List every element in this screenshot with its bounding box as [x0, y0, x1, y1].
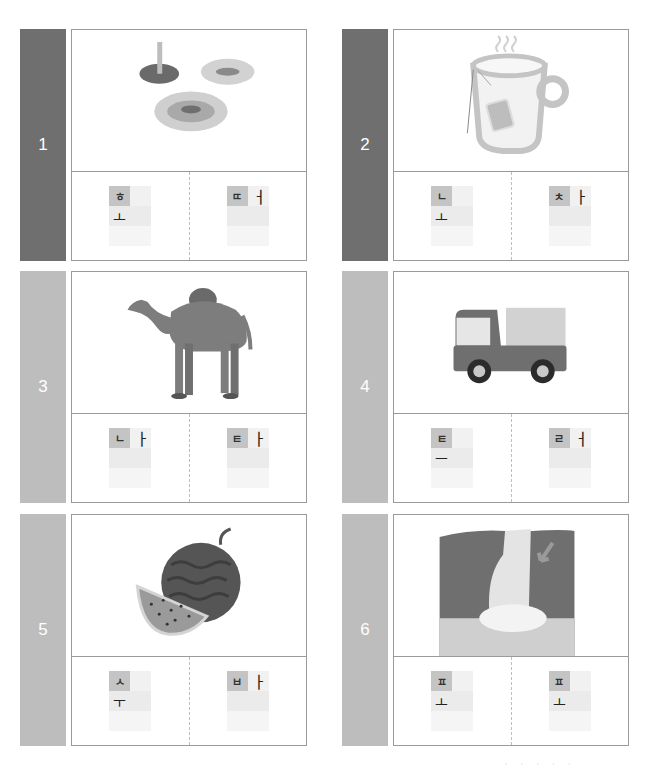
- jellyfish-icon: [72, 30, 306, 172]
- card-2: 2 ㄴ ㅗ ㅊ ㅏ: [342, 29, 632, 261]
- waterfall-icon: [394, 515, 628, 657]
- camel-icon: [72, 272, 306, 414]
- syllable-slot: ㄸ ㅓ: [189, 172, 307, 260]
- card-number: 1: [38, 135, 47, 155]
- consonant: ㅊ: [549, 186, 570, 206]
- syllable-slot: ㅌ ㅡ: [394, 414, 511, 502]
- consonant: ㅌ: [227, 428, 248, 448]
- consonant: ㅎ: [109, 186, 130, 206]
- syllable-slot: ㅂ ㅏ: [189, 657, 307, 745]
- number-panel: 6: [342, 514, 388, 746]
- syllable-slot: ㅊ ㅏ: [511, 172, 629, 260]
- consonant: ㄴ: [109, 428, 130, 448]
- number-panel: 1: [20, 29, 66, 261]
- vowel: ㅏ: [251, 428, 269, 448]
- card-3: 3 ㄴ ㅏ: [20, 271, 310, 503]
- vowel: ㅓ: [573, 428, 591, 448]
- syllable-slot: ㅌ ㅏ: [189, 414, 307, 502]
- card-box: ㅅ ㅜ ㅂ ㅏ: [71, 514, 307, 746]
- card-box: ㅌ ㅡ ㄹ ㅓ: [393, 271, 629, 503]
- card-number: 3: [38, 377, 47, 397]
- watermelon-icon: [72, 515, 306, 657]
- syllable-slot: ㄴ ㅗ: [394, 172, 511, 260]
- vowel: ㅗ: [431, 691, 452, 711]
- card-box: ㄴ ㅗ ㅊ ㅏ: [393, 29, 629, 261]
- card-number: 2: [360, 135, 369, 155]
- vowel: ㅏ: [133, 428, 151, 448]
- vowel: ㅗ: [431, 206, 452, 226]
- number-panel: 5: [20, 514, 66, 746]
- tea-cup-icon: [394, 30, 628, 172]
- syllable-slot: ㅅ ㅜ: [72, 657, 189, 745]
- card-6: 6 ㅍ ㅗ ㅍ ㅗ: [342, 514, 632, 746]
- consonant: ㅍ: [431, 671, 452, 691]
- card-4: 4 ㅌ ㅡ ㄹ ㅓ: [342, 271, 632, 503]
- syllable-slot: ㄴ ㅏ: [72, 414, 189, 502]
- card-5: 5 ㅅ ㅜ ㅂ ㅏ: [20, 514, 310, 746]
- consonant: ㄹ: [549, 428, 570, 448]
- vowel: ㅓ: [251, 186, 269, 206]
- consonant: ㅍ: [549, 671, 570, 691]
- vowel: ㅗ: [549, 691, 570, 711]
- card-box: ㅎ ㅗ ㄸ ㅓ: [71, 29, 307, 261]
- syllable-slot: ㅎ ㅗ: [72, 172, 189, 260]
- vowel: ㅡ: [431, 448, 452, 468]
- vowel: ㅗ: [109, 206, 130, 226]
- consonant: ㄸ: [227, 186, 248, 206]
- card-number: 6: [360, 620, 369, 640]
- consonant: ㄴ: [431, 186, 452, 206]
- card-1: 1 ㅎ ㅗ ㄸ ㅓ: [20, 29, 310, 261]
- vowel: ㅏ: [573, 186, 591, 206]
- number-panel: 2: [342, 29, 388, 261]
- consonant: ㅌ: [431, 428, 452, 448]
- syllable-slot: ㅍ ㅗ: [394, 657, 511, 745]
- card-box: ㅍ ㅗ ㅍ ㅗ: [393, 514, 629, 746]
- syllable-slot: ㄹ ㅓ: [511, 414, 629, 502]
- card-number: 4: [360, 377, 369, 397]
- card-box: ㄴ ㅏ ㅌ ㅏ: [71, 271, 307, 503]
- number-panel: 4: [342, 271, 388, 503]
- consonant: ㅂ: [227, 671, 248, 691]
- number-panel: 3: [20, 271, 66, 503]
- footer-marks: · · · · ·: [505, 760, 576, 767]
- consonant: ㅅ: [109, 671, 130, 691]
- truck-icon: [394, 272, 628, 414]
- vowel: ㅏ: [251, 671, 269, 691]
- card-number: 5: [38, 620, 47, 640]
- syllable-slot: ㅍ ㅗ: [511, 657, 629, 745]
- vowel: ㅜ: [109, 691, 130, 711]
